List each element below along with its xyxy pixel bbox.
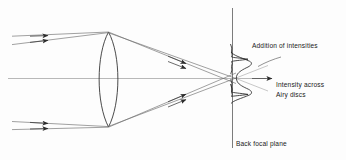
incoming-ray-4: [12, 127, 109, 129]
converging-rays-from-bottom: [109, 73, 237, 127]
leader-line-curve: [258, 57, 281, 67]
incoming-ray-3: [12, 122, 109, 127]
label-intensity-across-line1: Intensity across: [276, 81, 325, 89]
incoming-ray-1-arrow: [30, 36, 48, 37]
biconvex-lens: [99, 32, 118, 127]
label-back-focal-plane: Back focal plane: [236, 140, 287, 148]
converging-rays-from-top: [109, 32, 237, 84]
airy-peak-upper: [231, 44, 249, 74]
incoming-ray-2-arrow: [30, 40, 48, 42]
lens-left-surface: [99, 32, 108, 127]
addition-of-intensities-leader: [258, 57, 281, 67]
diagram-canvas: Addition of intensities Intensity across…: [0, 0, 346, 160]
label-addition-of-intensities: Addition of intensities: [252, 42, 318, 49]
optical-diagram-figure: Addition of intensities Intensity across…: [0, 0, 346, 160]
incoming-ray-3-arrow: [30, 122, 48, 123]
lens-right-surface: [109, 32, 118, 127]
incoming-rays-lower: [12, 122, 109, 130]
converging-ray-2: [109, 33, 237, 79]
diverging-ray-2: [236, 66, 268, 79]
converging-ray-4: [109, 78, 237, 126]
incoming-rays-upper: [12, 32, 109, 45]
label-intensity-across-line2: Airy discs: [276, 91, 306, 99]
